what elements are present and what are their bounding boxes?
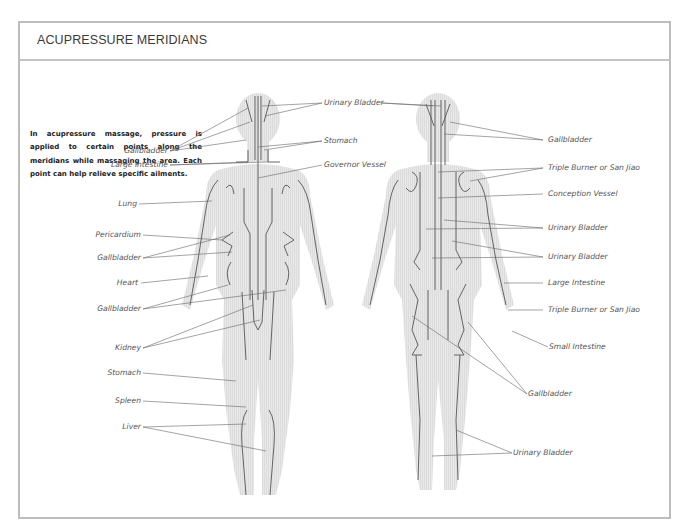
label-front-pericardium: Pericardium bbox=[95, 230, 141, 239]
label-back-conception-vessel: Conception Vessel bbox=[548, 189, 618, 198]
label-front-lung: Lung bbox=[118, 199, 137, 208]
label-front-spleen: Spleen bbox=[115, 396, 141, 405]
label-back-large-intestine: Large Intestine bbox=[548, 278, 605, 287]
label-front-gallbladder-1: Gallbladder bbox=[124, 146, 168, 155]
label-front-gallbladder-2: Gallbladder bbox=[97, 253, 141, 262]
back-body-figure bbox=[362, 93, 514, 490]
label-back-triple-burner-2: Triple Burner or San Jiao bbox=[548, 305, 640, 314]
label-front-gallbladder-3: Gallbladder bbox=[97, 304, 141, 313]
label-urinary-bladder-top: Urinary Bladder bbox=[324, 98, 384, 107]
label-back-urinary-bladder-3: Urinary Bladder bbox=[513, 448, 573, 457]
label-back-gallbladder-1: Gallbladder bbox=[548, 135, 592, 144]
label-front-stomach-head: Stomach bbox=[324, 136, 357, 145]
label-back-small-intestine: Small Intestine bbox=[549, 342, 606, 351]
label-back-urinary-bladder-2: Urinary Bladder bbox=[548, 252, 608, 261]
label-back-triple-burner-1: Triple Burner or San Jiao bbox=[548, 163, 640, 172]
label-back-urinary-bladder-1: Urinary Bladder bbox=[548, 223, 608, 232]
leader-lines bbox=[139, 103, 548, 456]
label-front-kidney: Kidney bbox=[115, 343, 141, 352]
label-back-gallbladder-2: Gallbladder bbox=[528, 389, 572, 398]
label-front-stomach: Stomach bbox=[108, 368, 141, 377]
meridian-diagram bbox=[0, 0, 687, 531]
label-front-liver: Liver bbox=[122, 422, 141, 431]
label-front-heart: Heart bbox=[117, 278, 138, 287]
label-governor-vessel: Governor Vessel bbox=[324, 160, 386, 169]
label-front-large-intestine: Large intestine bbox=[111, 160, 168, 169]
